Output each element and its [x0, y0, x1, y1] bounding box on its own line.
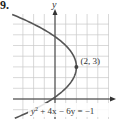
equation-label: y2 + 4x − 6y = −1 [30, 106, 94, 116]
x-axis [13, 97, 116, 102]
y-axis-label: y [51, 0, 57, 10]
x-axis-arrow-icon [110, 97, 116, 102]
y-axis [53, 9, 58, 119]
vertex-label: (2, 3) [80, 56, 100, 66]
parabola-graph: y (2, 3) y2 + 4x − 6y = −1 [0, 0, 118, 124]
vertex-point [74, 65, 78, 69]
